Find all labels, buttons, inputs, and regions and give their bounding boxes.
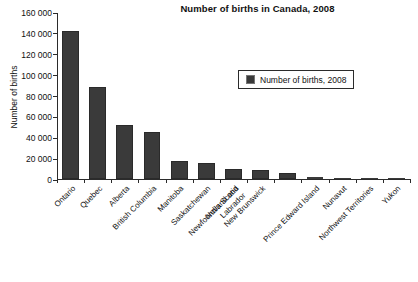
y-axis-tick-label: 40 000: [0, 133, 52, 143]
x-axis-tick: [383, 179, 384, 183]
x-axis-tick: [138, 179, 139, 183]
y-axis-tick: [53, 117, 58, 118]
bar: [62, 31, 79, 179]
y-axis-tick-label: 100 000: [0, 71, 52, 81]
bar: [89, 87, 106, 179]
y-axis-tick-label: 20 000: [0, 154, 52, 164]
y-axis-tick: [53, 13, 58, 14]
x-axis-tick: [84, 179, 85, 183]
y-axis-tick-label: 80 000: [0, 92, 52, 102]
x-axis-tick: [356, 179, 357, 183]
y-axis-tick: [53, 54, 58, 55]
x-axis-tick: [220, 179, 221, 183]
bar: [388, 178, 405, 179]
bar: [361, 178, 378, 179]
x-axis-tick: [193, 179, 194, 183]
bar: [171, 161, 188, 179]
chart-legend: Number of births, 2008: [238, 70, 354, 89]
x-axis-tick: [247, 179, 248, 183]
bar: [279, 173, 296, 179]
bar: [225, 169, 242, 179]
legend-swatch-icon: [246, 75, 255, 84]
x-axis-tick: [301, 179, 302, 183]
bar: [334, 178, 351, 179]
y-axis-tick-label: 160 000: [0, 8, 52, 18]
x-axis-tick-label: Ontario: [0, 184, 77, 282]
bar: [144, 132, 161, 179]
y-axis-tick: [53, 138, 58, 139]
bar: [252, 170, 269, 179]
y-axis-tick-label: 0: [0, 175, 52, 185]
x-axis-tick: [111, 179, 112, 183]
x-axis-tick: [329, 179, 330, 183]
x-axis-tick: [57, 179, 58, 183]
x-axis-tick: [410, 179, 411, 183]
bar: [198, 163, 215, 179]
y-axis-tick: [53, 33, 58, 34]
legend-item-label: Number of births, 2008: [260, 75, 346, 85]
y-axis-tick-label: 120 000: [0, 50, 52, 60]
plot-area: [57, 13, 410, 180]
y-axis-tick: [53, 159, 58, 160]
x-axis-line: [57, 179, 410, 180]
y-axis-tick-label: 60 000: [0, 112, 52, 122]
bar: [307, 177, 324, 179]
bar-chart: Number of births in Canada, 2008 Number …: [0, 0, 418, 282]
y-axis-tick-label: 140 000: [0, 29, 52, 39]
y-axis-tick: [53, 75, 58, 76]
x-axis-tick: [274, 179, 275, 183]
bar: [116, 125, 133, 179]
y-axis-tick: [53, 96, 58, 97]
x-axis-tick: [166, 179, 167, 183]
